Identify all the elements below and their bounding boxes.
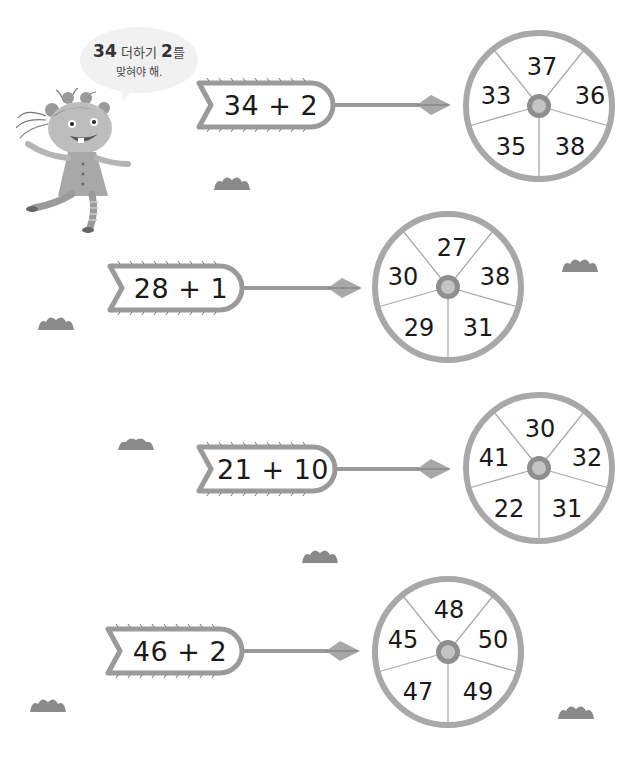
wheel-1-option-top[interactable]: 37	[527, 53, 558, 81]
wheel-4-option-lower-left[interactable]: 47	[403, 678, 434, 706]
wheel-3-option-upper-right[interactable]: 32	[572, 444, 603, 472]
wheel-1-option-lower-right[interactable]: 38	[555, 133, 586, 161]
wheel-4-option-upper-left[interactable]: 45	[388, 626, 419, 654]
wheel-4-option-lower-right[interactable]: 49	[463, 678, 494, 706]
wheel-1-option-upper-left[interactable]: 33	[481, 82, 512, 110]
wheel-4-option-upper-right[interactable]: 50	[478, 626, 509, 654]
wheel-2-option-lower-right[interactable]: 31	[463, 314, 494, 342]
wheel-2-option-lower-left[interactable]: 29	[404, 314, 435, 342]
wheel-3-option-lower-right[interactable]: 31	[552, 495, 583, 523]
expression-1: 34 + 2	[212, 83, 330, 127]
wheel-4-option-top[interactable]: 48	[434, 596, 465, 624]
wheel-1-option-lower-left[interactable]: 35	[496, 133, 527, 161]
expression-4: 46 + 2	[121, 629, 239, 673]
wheel-3-option-upper-left[interactable]: 41	[479, 444, 510, 472]
wheel-2-option-top[interactable]: 27	[437, 234, 468, 262]
wheel-2-option-upper-left[interactable]: 30	[388, 263, 419, 291]
wheel-2-option-upper-right[interactable]: 38	[480, 263, 511, 291]
expression-3: 21 + 10	[212, 447, 334, 491]
wheel-3-option-top[interactable]: 30	[525, 415, 556, 443]
wheel-3-option-lower-left[interactable]: 22	[494, 495, 525, 523]
wheel-1-option-upper-right[interactable]: 36	[575, 82, 606, 110]
expression-2: 28 + 1	[123, 266, 239, 310]
